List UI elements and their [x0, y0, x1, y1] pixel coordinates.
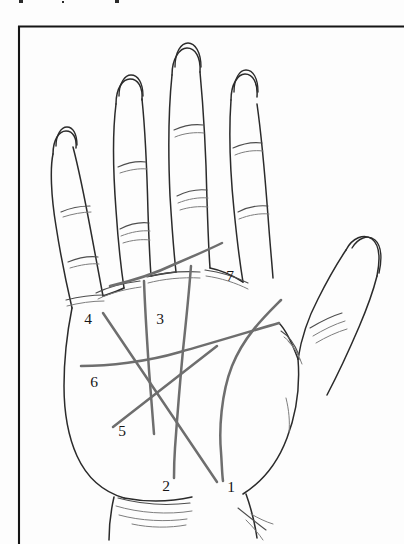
middle-finger-outline [169, 75, 176, 272]
figure-page: 1234567 [0, 0, 404, 544]
finger-creases-group [61, 125, 347, 343]
hand-outline-group [51, 43, 381, 540]
wrist-left-stub [109, 497, 114, 540]
line-6 [81, 323, 279, 366]
finger-2-tip [116, 79, 142, 104]
line-1 [220, 300, 281, 481]
palm-line-label-1: 1 [227, 478, 235, 495]
thumbnail [352, 237, 381, 273]
index-finger-outline [51, 154, 72, 308]
palm-line-label-4: 4 [84, 310, 92, 327]
wrist-contour [124, 497, 192, 501]
palm-line-label-3: 3 [156, 310, 164, 327]
page-ink-specks [19, 0, 119, 3]
thumb-tip [346, 236, 379, 276]
line-4 [103, 313, 217, 482]
thenar-eminence [243, 359, 299, 494]
thumb-outline-inner [298, 250, 346, 359]
numbered-palm-lines [81, 243, 281, 482]
finger-2-outline [114, 104, 124, 288]
thumb-outline-outer [327, 276, 377, 395]
palm-creases-group [66, 270, 302, 540]
palm-left-edge [64, 308, 124, 498]
palm-line-label-7: 7 [226, 267, 234, 284]
palm-line-label-5: 5 [118, 422, 126, 439]
ring-finger-outline [230, 100, 243, 282]
palm-diagram-illustration: 1234567 [0, 0, 404, 544]
palm-line-label-2: 2 [162, 477, 170, 494]
figure-border [18, 26, 404, 544]
palm-line-number-labels: 1234567 [84, 267, 235, 495]
line-5 [113, 346, 217, 427]
palm-line-label-6: 6 [90, 373, 98, 390]
middle-finger-tip [172, 48, 200, 75]
